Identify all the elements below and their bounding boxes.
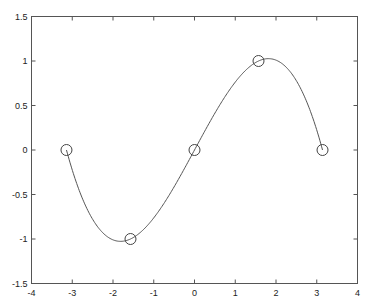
x-tick-label: -1 [150, 288, 158, 298]
y-tick-label: 0 [22, 145, 27, 155]
data-point-marker [61, 145, 72, 156]
y-tick-group: -1.5-1-0.500.511.5 [12, 12, 358, 289]
y-tick-label: -1.5 [12, 279, 28, 289]
x-tick-label: -4 [27, 288, 35, 298]
x-tick-label: 4 [355, 288, 360, 298]
y-tick-label: 1 [22, 56, 27, 66]
y-tick-label: 1.5 [15, 12, 28, 22]
x-tick-label: 2 [273, 288, 278, 298]
data-point-marker [317, 145, 328, 156]
x-tick-label: 3 [314, 288, 319, 298]
chart: -4-3-2-101234 -1.5-1-0.500.511.5 [0, 0, 374, 306]
y-tick-label: -0.5 [12, 190, 28, 200]
x-tick-label: -3 [68, 288, 76, 298]
x-tick-label: 1 [233, 288, 238, 298]
x-tick-label: 0 [192, 288, 197, 298]
x-tick-label: -2 [109, 288, 117, 298]
y-tick-label: -1 [19, 234, 27, 244]
y-tick-label: 0.5 [15, 101, 28, 111]
spline-curve [66, 59, 322, 242]
x-tick-group: -4-3-2-101234 [27, 17, 360, 298]
